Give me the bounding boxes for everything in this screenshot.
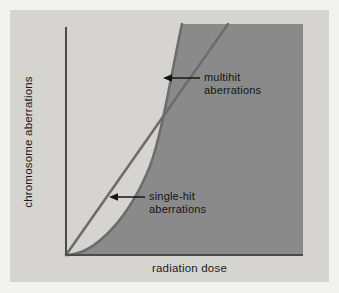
single-hit-annotation-line1: single-hit: [149, 190, 206, 203]
multihit-annotation-line1: multihit: [204, 71, 261, 84]
single-hit-annotation-line2: aberrations: [149, 203, 206, 216]
x-axis-label: radiation dose: [0, 262, 339, 274]
multihit-annotation: multihit aberrations: [204, 71, 261, 97]
multihit-annotation-line2: aberrations: [204, 84, 261, 97]
y-axis-label: chromosome aberrations: [22, 52, 34, 232]
shaded-region: [66, 24, 303, 255]
single-hit-annotation: single-hit aberrations: [149, 190, 206, 216]
plot-graphics: [0, 0, 339, 293]
figure-container: multihit aberrations single-hit aberrati…: [0, 0, 339, 293]
